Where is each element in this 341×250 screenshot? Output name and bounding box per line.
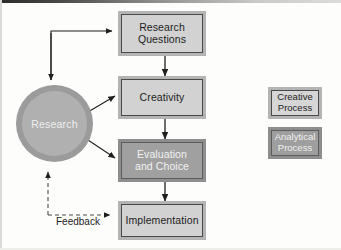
- legend-label-analytical-process: Analytical Process: [275, 132, 316, 153]
- node-creativity[interactable]: Creativity: [118, 76, 206, 119]
- legend-item-analytical-process: Analytical Process: [268, 127, 322, 159]
- node-implementation[interactable]: Implementation: [118, 201, 206, 240]
- node-evaluation-and-choice[interactable]: Evaluation and Choice: [118, 139, 206, 182]
- edge-research-evaluation: [88, 140, 115, 158]
- legend-label-creative-process: Creative Process: [277, 92, 312, 113]
- node-research-circle[interactable]: Research: [16, 85, 93, 162]
- node-label-research-questions: Research Questions: [138, 22, 186, 46]
- diagram-canvas: Research Questions Creativity Evaluation…: [0, 0, 341, 250]
- node-label-creativity: Creativity: [140, 92, 185, 104]
- edge-loop-research-questions: [51, 31, 112, 80]
- edge-research-creativity: [88, 96, 115, 112]
- legend-item-creative-process: Creative Process: [268, 87, 322, 119]
- node-research-questions[interactable]: Research Questions: [118, 11, 206, 56]
- circle-inner: Research: [22, 91, 87, 156]
- edge-feedback: [48, 172, 110, 215]
- edge-label-feedback: Feedback: [56, 216, 100, 227]
- node-label-research: Research: [31, 118, 78, 130]
- node-label-implementation: Implementation: [125, 215, 198, 227]
- node-label-evaluation-and-choice: Evaluation and Choice: [135, 149, 189, 173]
